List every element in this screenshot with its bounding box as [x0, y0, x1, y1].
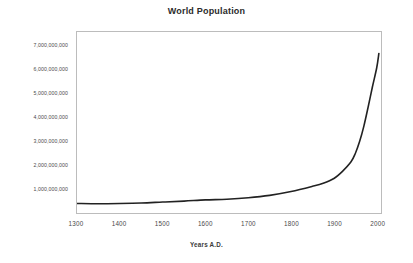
x-axis-tick-label: 1900: [327, 219, 342, 229]
x-axis-tick-labels: 13001400150016001700180019002000: [76, 219, 382, 231]
x-axis-tick-label: 1800: [284, 219, 299, 229]
x-axis-tick-label: 1400: [112, 219, 127, 229]
y-axis-tick-label: 7,000,000,000: [34, 42, 68, 49]
x-axis-tick-label: 1500: [155, 219, 170, 229]
y-axis-tick-labels: 7,000,000,0006,000,000,0005,000,000,0004…: [0, 31, 72, 214]
y-axis-tick-label: 5,000,000,000: [34, 90, 68, 97]
y-axis-tick-label: 1,000,000,000: [34, 186, 68, 193]
x-axis-tick-label: 1300: [69, 219, 84, 229]
population-line-path: [77, 53, 379, 203]
y-axis-tick-label: 6,000,000,000: [34, 66, 68, 73]
population-line-svg: [77, 32, 381, 213]
x-axis-tick-label: 1700: [241, 219, 256, 229]
chart-title: World Population: [0, 6, 413, 16]
x-axis-title: Years A.D.: [0, 241, 413, 248]
y-axis-tick-label: 3,000,000,000: [34, 138, 68, 145]
plot-area: [76, 31, 382, 214]
world-population-chart: World Population 7,000,000,0006,000,000,…: [0, 0, 413, 263]
y-axis-tick-label: 2,000,000,000: [34, 162, 68, 169]
y-axis-tick-label: 4,000,000,000: [34, 114, 68, 121]
x-axis-tick-label: 1600: [198, 219, 213, 229]
x-axis-tick-label: 2000: [370, 219, 385, 229]
